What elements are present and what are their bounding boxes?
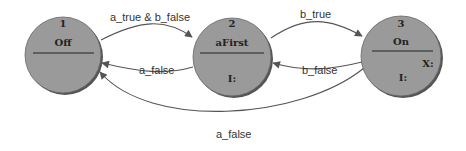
state-name: Off [55,37,73,48]
state-diagram: a_true & b_false a_false b_true b_false … [0,0,466,151]
transition-label: a_true & b_false [110,11,190,23]
state-3[interactable]: 3 On X: I: [361,16,443,98]
state-2[interactable]: 2 aFirst I: [193,18,273,98]
state-name: aFirst [216,37,249,48]
state-number: 1 [60,18,67,29]
transition-label: a_false [139,64,174,76]
transition-label: b_false [302,64,337,76]
transition-label: a_false [216,128,251,140]
state-name: On [393,36,410,47]
state-action: X: [422,58,433,69]
state-1[interactable]: 1 Off [25,17,103,95]
state-number: 2 [229,18,236,29]
state-action: I: [399,72,407,83]
state-action: I: [228,73,236,84]
state-number: 3 [398,18,405,29]
transition-1-2[interactable] [101,24,192,40]
transition-2-3[interactable] [271,22,362,38]
transition-label: b_true [300,8,331,20]
